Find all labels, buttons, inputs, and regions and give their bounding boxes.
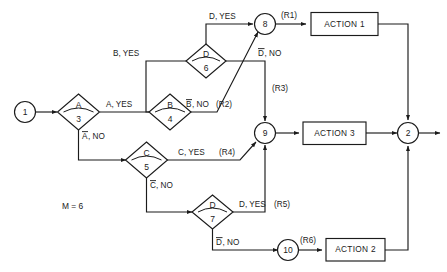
node-decision-d6[interactable]: D 6 [186,44,226,78]
box-action3-label: ACTION 3 [314,128,355,138]
node-decision-b[interactable]: B 4 [149,94,191,130]
label-b-no-suffix: , NO [192,100,209,109]
node-junction-8-label: 8 [263,19,268,29]
node-decision-d6-number: 6 [204,63,209,73]
edge-action1-to-exit [378,24,408,120]
label-rule-r1: (R1) [281,11,297,20]
label-a-no-suffix: , NO [88,132,105,141]
note-m-value: M = 6 [62,201,84,211]
node-exit[interactable]: 2 [398,123,419,144]
node-decision-c-number: 5 [144,162,149,172]
node-decision-b-condition: B [167,100,173,110]
label-rule-r4: (R4) [219,148,235,157]
edge-d6-no-r3-to-j9 [219,61,265,121]
label-b-yes: B, YES [113,49,140,58]
label-d-no-mid: D , NO [258,49,281,59]
edge-action2-to-exit [385,146,408,250]
label-rule-r6: (R6) [300,236,316,245]
node-junction-10[interactable]: 10 [278,240,299,261]
node-decision-b-number: 4 [168,114,173,124]
flowchart-canvas: 1 A 3 B 4 C 5 D 6 [0,0,447,272]
edge-d6-yes-to-j8 [206,24,253,48]
node-start-label: 1 [23,107,28,117]
node-start[interactable]: 1 [15,102,36,123]
label-a-yes: A, YES [106,100,133,109]
label-c-no: C , NO [150,181,173,191]
node-decision-a[interactable]: A 3 [58,94,100,130]
node-junction-9-label: 9 [263,128,268,138]
node-decision-a-number: 3 [76,114,81,124]
node-decision-d6-condition: D [203,49,209,59]
flowchart-svg: 1 A 3 B 4 C 5 D 6 [0,0,447,272]
node-junction-9[interactable]: 9 [255,123,276,144]
node-exit-label: 2 [406,128,411,138]
node-junction-10-label: 10 [283,245,293,255]
label-c-no-suffix: , NO [156,181,173,190]
box-action2[interactable]: ACTION 2 [326,239,385,262]
box-action1-label: ACTION 1 [324,19,365,29]
node-decision-a-condition: A [76,100,82,110]
node-decision-c-condition: C [143,148,149,158]
label-d-no-mid-suffix: , NO [265,49,282,58]
node-junction-8[interactable]: 8 [255,14,276,35]
node-decision-d7-condition: D [209,200,215,210]
box-action2-label: ACTION 2 [335,244,376,254]
node-decision-c[interactable]: C 5 [126,142,168,178]
label-d-no-mid-var: D [258,49,264,58]
label-d-no-bottom-var: D [216,238,222,247]
label-d-yes-bottom: D, YES [239,200,266,209]
node-decision-d7[interactable]: D 7 [192,195,233,229]
label-c-yes: C, YES [178,148,205,157]
label-d-no-bottom: D , NO [216,238,239,248]
label-d-no-bottom-suffix: , NO [223,238,240,247]
label-b-no: B , NO (R2) [186,100,232,110]
box-action3[interactable]: ACTION 3 [303,122,366,145]
label-d-yes-top: D, YES [209,12,236,21]
label-a-no: A , NO [82,132,105,142]
label-rule-r5: (R5) [274,200,290,209]
node-decision-d7-number: 7 [210,214,215,224]
label-rule-r2: (R2) [216,100,232,109]
label-rule-r3: (R3) [272,84,288,93]
box-action1[interactable]: ACTION 1 [311,13,378,36]
